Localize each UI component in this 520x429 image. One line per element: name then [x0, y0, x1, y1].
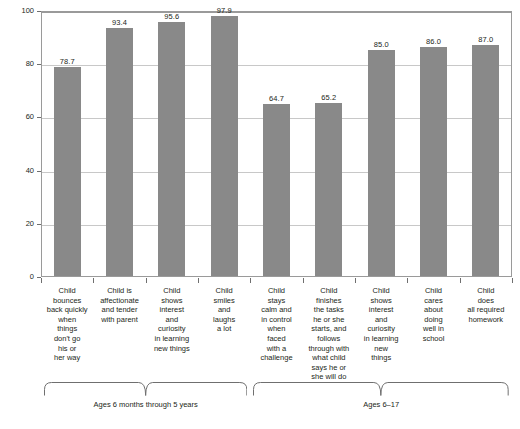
category-label-line: back quickly: [47, 305, 88, 314]
category-label-line: doing: [424, 315, 442, 324]
group-label: Ages 6 months through 5 years: [44, 400, 247, 409]
x-tick-mark: [303, 278, 304, 283]
bar-chart: Percent 020406080100 78.793.495.697.964.…: [0, 0, 520, 429]
category-label-line: new: [374, 344, 388, 353]
bar-value-label: 97.9: [194, 6, 254, 15]
category-label-line: in learning: [364, 334, 399, 343]
category-label-line: Child: [373, 286, 390, 295]
plot-area: [41, 11, 512, 277]
category-label-line: finishes: [316, 296, 341, 305]
category-label-line: Child: [59, 286, 76, 295]
category-label-line: in control: [261, 315, 291, 324]
category-label-line: interest: [369, 305, 394, 314]
x-axis-category-label: Childshowsinterestandcuriosityin learnin…: [146, 286, 198, 353]
category-label-line: she will do: [311, 372, 346, 381]
category-label-line: follows: [317, 334, 340, 343]
category-label-line: through with: [308, 344, 349, 353]
y-tick-label-100: 100: [6, 7, 34, 15]
x-axis-category-label: Childfinishesthe taskshe or shestarts, a…: [303, 286, 355, 382]
category-label-line: laughs: [213, 315, 235, 324]
gridline-100: [42, 12, 511, 13]
y-tick-label-0: 0: [6, 273, 34, 281]
category-label-line: Child: [163, 286, 180, 295]
x-tick-mark: [355, 278, 356, 283]
x-axis-category-label: Childcaresaboutdoingwell inschool: [408, 286, 460, 344]
category-label-line: cares: [424, 296, 442, 305]
category-label-line: with a: [267, 344, 287, 353]
bar: [54, 67, 81, 276]
bar-value-label: 64.7: [247, 94, 307, 103]
category-label-line: well in: [423, 324, 444, 333]
category-label-line: Child is: [107, 286, 132, 295]
x-tick-mark: [198, 278, 199, 283]
bar-value-label: 78.7: [37, 57, 97, 66]
bar: [211, 16, 238, 276]
category-label-line: all required: [467, 305, 504, 314]
category-label-line: faced: [267, 334, 285, 343]
category-label-line: and: [218, 305, 231, 314]
category-label-line: what child: [312, 353, 345, 362]
bar: [368, 50, 395, 276]
category-label-line: his or: [58, 344, 76, 353]
category-label-line: does: [478, 296, 494, 305]
bar-value-label: 93.4: [90, 18, 150, 27]
category-label-line: in learning: [155, 334, 190, 343]
x-tick-mark: [146, 278, 147, 283]
x-axis-category-label: Child isaffectionateand tenderwith paren…: [94, 286, 146, 324]
x-axis-category-label: Childshowsinterestandcuriosityin learnin…: [355, 286, 407, 363]
bar: [420, 47, 447, 276]
category-label-line: and tender: [102, 305, 138, 314]
group-label: Ages 6–17: [253, 400, 509, 409]
bar: [263, 104, 290, 276]
bar: [158, 22, 185, 276]
category-label-line: Child: [425, 286, 442, 295]
category-label-line: he or she: [313, 315, 344, 324]
category-label-line: about: [424, 305, 443, 314]
category-label-line: affectionate: [100, 296, 139, 305]
bar: [315, 103, 342, 276]
category-label-line: challenge: [260, 353, 292, 362]
bar-value-label: 87.0: [456, 35, 516, 44]
category-label-line: bounces: [53, 296, 81, 305]
bar-value-label: 65.2: [299, 93, 359, 102]
category-label-line: things: [371, 353, 391, 362]
category-label-line: stays: [268, 296, 286, 305]
category-label-line: things: [57, 324, 77, 333]
x-axis-category-label: Childsmilesandlaughsa lot: [198, 286, 250, 334]
category-label-line: Child: [268, 286, 285, 295]
x-tick-mark: [407, 278, 408, 283]
category-label-line: school: [423, 334, 445, 343]
group-bracket: [44, 382, 247, 396]
x-axis-category-label: Childdoesall requiredhomework: [460, 286, 512, 324]
x-axis-category-label: Childbouncesback quicklywhenthingsdon't …: [41, 286, 93, 363]
category-label-line: when: [268, 324, 286, 333]
category-label-line: starts, and: [311, 324, 346, 333]
category-label-line: don't go: [54, 334, 80, 343]
y-tick-label-80: 80: [6, 60, 34, 68]
category-label-line: and: [375, 315, 388, 324]
category-label-line: her way: [54, 353, 80, 362]
category-label-line: Child: [320, 286, 337, 295]
y-tick-label-60: 60: [6, 113, 34, 121]
category-label-line: homework: [469, 315, 504, 324]
bar: [472, 45, 499, 276]
bar-value-label: 86.0: [404, 37, 464, 46]
group-bracket-icon: [44, 382, 247, 396]
category-label-line: the tasks: [314, 305, 344, 314]
category-label-line: and: [166, 315, 179, 324]
category-label-line: curiosity: [158, 324, 186, 333]
category-label-line: with parent: [101, 315, 138, 324]
category-label-line: interest: [160, 305, 185, 314]
category-label-line: when: [58, 315, 76, 324]
category-label-line: Child: [216, 286, 233, 295]
y-tick-label-40: 40: [6, 167, 34, 175]
category-label-line: shows: [371, 296, 392, 305]
category-label-line: curiosity: [367, 324, 395, 333]
category-label-line: calm and: [261, 305, 291, 314]
bar: [106, 28, 133, 276]
x-tick-mark: [93, 278, 94, 283]
x-axis-category-label: Childstayscalm andin controlwhenfacedwit…: [251, 286, 303, 363]
x-tick-mark: [512, 278, 513, 283]
category-label-line: smiles: [214, 296, 235, 305]
bar-value-label: 95.6: [142, 12, 202, 21]
